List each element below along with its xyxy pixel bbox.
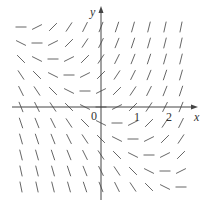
slope-segment xyxy=(81,55,89,63)
slope-segment xyxy=(48,73,58,78)
slope-segment xyxy=(164,22,166,33)
slope-segment xyxy=(180,22,182,33)
slope-segment xyxy=(52,182,55,193)
slope-segment xyxy=(180,54,183,65)
slope-segment xyxy=(35,134,38,144)
slope-segment xyxy=(176,169,186,174)
slope-segment xyxy=(131,38,134,48)
slope-segment xyxy=(20,182,22,193)
slope-segment xyxy=(160,185,170,190)
tick-label-2: 2 xyxy=(166,111,172,123)
slope-segment xyxy=(67,150,71,160)
slope-segment xyxy=(114,166,120,175)
slope-segment xyxy=(51,118,56,128)
slope-segment xyxy=(36,182,38,193)
slope-segment xyxy=(51,166,54,177)
slope-segment xyxy=(147,54,150,64)
slope-segment xyxy=(20,166,22,177)
slope-segment xyxy=(163,70,166,80)
slope-segment xyxy=(144,137,154,142)
slope-segment xyxy=(147,86,152,96)
slope-segment xyxy=(83,150,88,160)
slope-segment xyxy=(32,57,42,62)
slope-segment xyxy=(64,89,74,94)
slope-segment xyxy=(160,153,170,158)
slope-segment xyxy=(179,70,182,81)
slope-segment xyxy=(131,22,134,33)
slope-segment xyxy=(131,70,136,80)
slope-segment xyxy=(82,134,88,143)
slope-segment xyxy=(66,22,72,31)
slope-segment xyxy=(179,86,182,96)
slope-segment xyxy=(114,70,120,79)
slope-segment xyxy=(67,182,70,193)
slope-segment xyxy=(82,38,88,47)
slope-segment xyxy=(115,22,118,32)
slope-segment xyxy=(163,86,167,96)
slope-segment xyxy=(64,57,74,62)
slope-segment xyxy=(49,23,57,31)
slope-segment xyxy=(83,182,86,192)
slope-segment xyxy=(16,41,26,46)
slope-segment xyxy=(18,70,24,79)
slope-segment xyxy=(32,25,42,30)
slope-segment xyxy=(145,183,153,191)
slope-segment xyxy=(144,169,154,174)
slope-segment xyxy=(49,87,57,95)
tick-label-1: 1 xyxy=(134,111,140,123)
slope-segment xyxy=(83,22,88,32)
y-axis-arrow-icon xyxy=(99,6,104,13)
slope-segment xyxy=(113,151,121,159)
slope-segment xyxy=(131,54,135,64)
slope-segment xyxy=(115,54,120,64)
slope-segment xyxy=(36,166,39,177)
slope-segment xyxy=(17,55,25,63)
slope-segment xyxy=(147,38,150,49)
slope-segment xyxy=(112,137,122,142)
slope-segment xyxy=(19,86,24,96)
slope-segment xyxy=(81,119,89,127)
slope-segment xyxy=(148,22,151,33)
slope-segment xyxy=(128,153,138,158)
slope-segment xyxy=(177,151,185,159)
slope-segment xyxy=(20,150,23,161)
slope-segment xyxy=(65,39,73,47)
slope-segment xyxy=(19,134,22,145)
slope-segment xyxy=(51,150,54,160)
slope-segment xyxy=(164,38,167,49)
slope-segment xyxy=(115,38,119,48)
origin-label: 0 xyxy=(91,110,97,122)
slope-segment xyxy=(130,182,136,191)
y-axis-label: y xyxy=(90,6,95,18)
slope-segment xyxy=(130,86,136,95)
slope-segment xyxy=(33,71,41,79)
slope-segment xyxy=(145,119,153,127)
slope-segment xyxy=(35,118,39,128)
slope-segment xyxy=(80,73,90,78)
slope-segment xyxy=(83,166,87,176)
slope-segment xyxy=(178,134,184,143)
slope-segment xyxy=(66,118,72,127)
slope-segment xyxy=(67,166,70,176)
slope-segment xyxy=(35,150,38,161)
slope-segment xyxy=(179,118,184,128)
slope-segment xyxy=(34,86,40,95)
slope-segment xyxy=(51,134,55,144)
x-axis-label: x xyxy=(194,111,199,123)
x-axis-arrow-icon xyxy=(191,105,198,110)
slope-segment xyxy=(115,182,120,192)
slope-segment xyxy=(180,38,182,49)
slope-segment xyxy=(19,118,22,128)
slope-segment xyxy=(163,54,166,65)
slope-segment xyxy=(48,41,58,46)
slope-segment xyxy=(129,167,137,175)
slope-segment xyxy=(147,70,151,80)
slope-segment xyxy=(113,87,121,95)
slope-field-diagram xyxy=(0,0,212,204)
slope-segment xyxy=(67,134,72,144)
slope-segment xyxy=(161,135,169,143)
